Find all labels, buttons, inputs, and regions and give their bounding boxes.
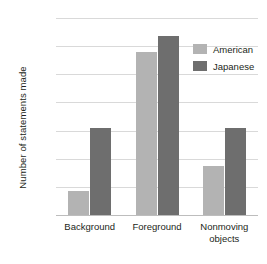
legend-item-japanese: Japanese (193, 59, 267, 73)
y-axis-title: Number of statements made (17, 38, 28, 218)
x-axis-label-nonmoving-objects: Nonmovingobjects (185, 221, 264, 244)
legend-label-american: American (213, 44, 253, 55)
x-label-line2: objects (185, 233, 264, 245)
bar-japanese-background (90, 128, 111, 215)
x-label-line1: Nonmoving (185, 221, 264, 233)
gridline-140 (56, 18, 258, 19)
legend-item-american: American (193, 42, 267, 56)
bar-japanese-foreground (158, 36, 179, 215)
bar-american-foreground (136, 52, 157, 215)
bar-american-background (68, 191, 89, 215)
chart-legend: American Japanese (193, 42, 267, 76)
legend-swatch-american (193, 44, 207, 54)
legend-swatch-japanese (193, 61, 207, 71)
legend-label-japanese: Japanese (213, 61, 254, 72)
bar-chart: Number of statements made 02040608010012… (0, 0, 267, 264)
bar-american-nonmoving-objects (203, 166, 224, 215)
bar-japanese-nonmoving-objects (225, 128, 246, 215)
gridline-0 (56, 215, 258, 216)
